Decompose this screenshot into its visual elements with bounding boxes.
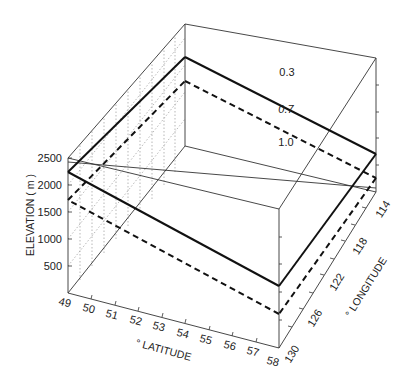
contour-label-0.3: 0.3 <box>279 66 294 78</box>
lon-tick-114: 114 <box>373 198 392 219</box>
z-tick-2000: 2000 <box>38 179 62 191</box>
latitude-axis-title: ° LATITUDE <box>134 336 192 362</box>
z-axis-title: ELEVATION ( m ) <box>24 174 36 256</box>
z-tick-500: 500 <box>44 260 62 272</box>
latitude-labels: 49 50 51 52 53 54 55 56 57 58 <box>58 295 281 369</box>
z-tick-1000: 1000 <box>38 233 62 245</box>
lat-tick-56: 56 <box>223 338 238 353</box>
lat-tick-58: 58 <box>266 354 281 369</box>
lat-tick-53: 53 <box>152 319 167 334</box>
z-tick-2500: 2500 <box>38 152 62 164</box>
surface-line-1.0 <box>68 162 376 188</box>
contour-label-1.0: 1.0 <box>278 136 293 148</box>
lon-tick-122: 122 <box>327 271 347 293</box>
lon-tick-130: 130 <box>282 343 302 365</box>
lat-tick-49: 49 <box>58 295 73 310</box>
3d-elevation-chart: 500 1000 1500 2000 2500 ELEVATION ( m ) … <box>0 0 404 384</box>
z-axis-labels: 500 1000 1500 2000 2500 <box>38 152 62 272</box>
contour-label-0.7: 0.7 <box>278 103 294 115</box>
lon-tick-118: 118 <box>350 235 369 256</box>
lon-tick-126: 126 <box>305 307 325 329</box>
lat-tick-54: 54 <box>176 326 191 341</box>
longitude-axis-title: ° LONGITUDE <box>343 255 389 319</box>
lat-tick-50: 50 <box>82 301 97 316</box>
lat-tick-55: 55 <box>199 332 214 347</box>
bounding-box <box>68 24 376 348</box>
surface-0.3 <box>68 57 376 286</box>
lat-tick-51: 51 <box>105 307 120 322</box>
z-tick-1500: 1500 <box>38 206 62 218</box>
lat-tick-52: 52 <box>129 313 144 328</box>
lat-tick-57: 57 <box>246 344 261 359</box>
